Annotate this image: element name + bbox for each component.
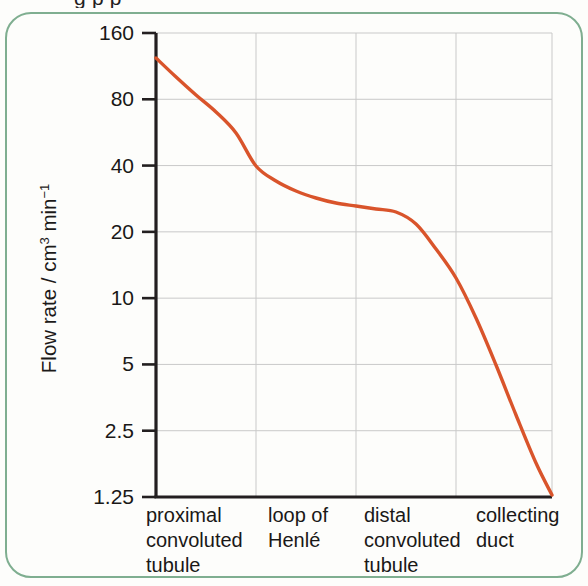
x-category-label-line: proximal	[146, 503, 243, 528]
y-axis-title-sup-inverse: −1	[37, 184, 52, 199]
x-category-label-line: duct	[476, 528, 559, 553]
x-category-label-line: convoluted	[146, 528, 243, 553]
y-axis-tickmarks	[142, 33, 156, 497]
x-category-label-3: collectingduct	[476, 503, 559, 553]
y-axis-title-mid: min	[37, 198, 60, 237]
x-category-label-1: loop ofHenlé	[268, 503, 328, 553]
y-tick-label-5: 5	[68, 353, 134, 374]
y-axis-title: Flow rate / cm3 min−1	[37, 163, 62, 393]
y-tick-label-80: 80	[68, 88, 134, 109]
x-category-label-line: distal	[364, 503, 461, 528]
x-category-label-line: tubule	[364, 553, 461, 578]
y-tick-label-10: 10	[68, 287, 134, 308]
y-tick-label-2.5: 2.5	[68, 420, 134, 441]
axis-lines	[154, 33, 552, 497]
y-axis-tick-labels: 1608040201052.51.25	[68, 0, 134, 586]
x-category-label-2: distalconvolutedtubule	[364, 503, 461, 578]
vertical-gridlines	[256, 33, 552, 497]
horizontal-gridlines	[156, 33, 552, 497]
x-category-label-line: convoluted	[364, 528, 461, 553]
y-tick-label-20: 20	[68, 221, 134, 242]
y-tick-label-40: 40	[68, 155, 134, 176]
chart-figure: Flow rate / cm3 min−1 1608040201052.51.2…	[0, 0, 588, 586]
y-axis-title-prefix: Flow rate / cm	[37, 244, 60, 373]
x-category-label-line: loop of	[268, 503, 328, 528]
x-axis-category-labels: proximalconvolutedtubuleloop ofHenlédist…	[0, 503, 588, 586]
y-axis-title-sup-cubed: 3	[37, 237, 52, 244]
x-category-label-line: Henlé	[268, 528, 328, 553]
flow-rate-curve	[156, 58, 552, 495]
x-category-label-line: collecting	[476, 503, 559, 528]
y-tick-label-160: 160	[68, 22, 134, 43]
x-category-label-line: tubule	[146, 553, 243, 578]
x-category-label-0: proximalconvolutedtubule	[146, 503, 243, 578]
